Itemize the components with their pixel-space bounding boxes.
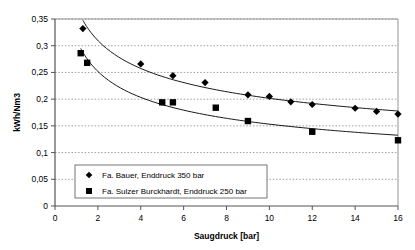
y-axis-tick-label: 0,3 (36, 41, 48, 51)
y-axis-title: kWh/Nm3 (12, 93, 22, 132)
x-axis-tick-label: 2 (96, 213, 101, 223)
data-point-marker (84, 60, 90, 66)
x-axis-tick-label: 0 (53, 213, 58, 223)
y-axis-tick-label: 0,35 (31, 14, 48, 24)
y-axis-tick-label: 0,2 (36, 94, 48, 104)
y-axis-tick-label: 0 (43, 201, 48, 211)
y-axis-tick-label: 0,05 (31, 174, 48, 184)
data-point-marker (245, 118, 251, 124)
x-axis-tick-label: 14 (350, 213, 360, 223)
legend-marker-square (86, 188, 92, 194)
data-point-marker (78, 50, 84, 56)
data-point-marker (159, 99, 165, 105)
data-point-marker (395, 137, 401, 143)
x-axis-tick-label: 12 (308, 213, 318, 223)
chart-legend: Fa. Bauer, Enddruck 350 barFa. Sulzer Bu… (75, 165, 267, 198)
x-axis-tick-label: 10 (265, 213, 275, 223)
x-axis-tick-label: 16 (393, 213, 403, 223)
y-axis-tick-label: 0,25 (31, 67, 48, 77)
y-axis-tick-label: 0,1 (36, 148, 48, 158)
x-axis-tick-label: 8 (224, 213, 229, 223)
chart-container: 00,050,10,150,20,250,30,350246810121416S… (0, 0, 415, 250)
x-axis-tick-label: 4 (138, 213, 143, 223)
scatter-chart: 00,050,10,150,20,250,30,350246810121416S… (0, 0, 415, 250)
y-axis-tick-label: 0,15 (31, 121, 48, 131)
data-point-marker (309, 129, 315, 135)
legend-entry-label: Fa. Bauer, Enddruck 350 bar (102, 171, 205, 180)
data-point-marker (213, 104, 219, 110)
x-axis-tick-label: 6 (181, 213, 186, 223)
legend-entry-label: Fa. Sulzer Burckhardt, Enddruck 250 bar (102, 187, 247, 196)
x-axis-title: Saugdruck [bar] (194, 231, 259, 241)
data-point-marker (170, 99, 176, 105)
